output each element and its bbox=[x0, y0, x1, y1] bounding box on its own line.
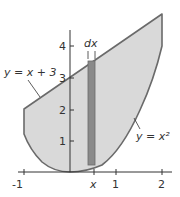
lower-curve-label: y = x² bbox=[135, 130, 170, 143]
x-tick-label: -1 bbox=[12, 178, 23, 191]
x-tick-label: x bbox=[89, 178, 97, 191]
dx-strip bbox=[88, 61, 95, 165]
region-diagram: -1 x 1 2 1 2 3 4 dx y = x + 3 y = x² bbox=[0, 0, 180, 197]
y-tick-label: 2 bbox=[59, 104, 66, 117]
y-tick-label: 1 bbox=[59, 135, 66, 148]
upper-curve-leader bbox=[28, 80, 40, 97]
dx-label: dx bbox=[84, 37, 98, 50]
y-tick-label: 3 bbox=[59, 72, 66, 85]
x-tick-label: 1 bbox=[112, 178, 119, 191]
y-tick-label: 4 bbox=[59, 40, 66, 53]
upper-curve-label: y = x + 3 bbox=[3, 66, 56, 79]
x-tick-label: 2 bbox=[158, 178, 165, 191]
lower-curve-leader bbox=[134, 118, 140, 129]
